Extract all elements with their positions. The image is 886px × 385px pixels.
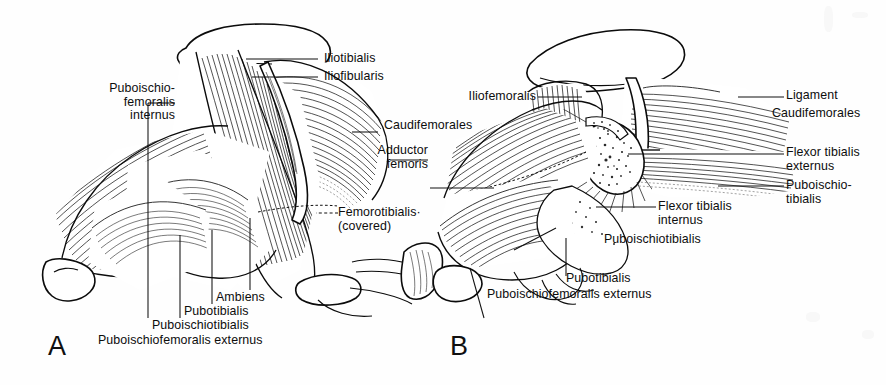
label-puboischiotibialis-b: Puboischiotibialis [604, 233, 701, 247]
label-pubotibialis-b: Pubotibialis [566, 272, 631, 286]
label-iliofemoralis: Iliofemoralis [420, 90, 536, 104]
label-ligament: Ligament [786, 89, 838, 103]
label-ambiens: Ambiens [216, 291, 265, 305]
label-iliotibialis: Iliotibialis [324, 52, 375, 66]
label-femorotibialis-covered: Femorotibialis· (covered) [338, 206, 421, 233]
figure-artwork [0, 0, 886, 385]
label-pubotibialis-a: Pubotibialis [184, 305, 249, 319]
panel-letter-a: A [48, 331, 67, 362]
panel-letter-b: B [450, 331, 469, 362]
label-puboischiofemoralis-externus-a: Puboischiofemoralis externus [98, 334, 263, 348]
label-flexor-tibialis-externus: Flexor tibialis externus [786, 146, 860, 173]
label-caudifemorales-a: Caudifemorales [384, 119, 472, 133]
label-puboischiofemoralis-externus-b: Puboischiofemoralis externus [487, 288, 652, 302]
label-puboischiotibialis-right: Puboischio- tibialis [786, 179, 852, 206]
label-adductor-femoris: Adductor femoris [300, 144, 428, 171]
label-iliofibularis: Iliofibularis [324, 70, 384, 84]
anatomical-figure: Iliotibialis Iliofibularis Puboischio- f… [0, 0, 886, 385]
label-caudifemorales-b: Caudifemorales [772, 107, 860, 121]
label-flexor-tibialis-internus: Flexor tibialis internus [658, 200, 732, 227]
label-puboischiofemoralis-internus: Puboischio- femoralis internus [0, 82, 175, 123]
label-puboischiotibialis-a: Puboischiotibialis [152, 319, 249, 333]
